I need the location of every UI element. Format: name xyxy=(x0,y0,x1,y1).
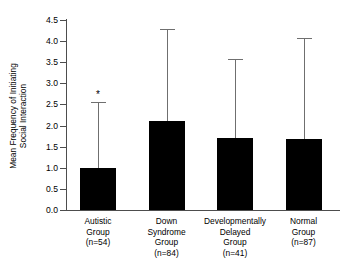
bar xyxy=(149,121,185,210)
y-axis-tick xyxy=(60,147,66,148)
error-bar-line xyxy=(167,29,168,121)
error-bar-cap xyxy=(297,38,312,39)
y-axis-tick-label: 0.5 xyxy=(14,184,58,194)
y-axis-tick xyxy=(60,104,66,105)
y-axis-tick xyxy=(60,20,66,21)
y-axis-line xyxy=(66,19,67,211)
error-bar-cap xyxy=(160,29,175,30)
y-axis-tick xyxy=(60,168,66,169)
error-bar-line xyxy=(235,59,236,138)
error-bar-line xyxy=(304,38,305,139)
y-axis-tick-label: 3.5 xyxy=(14,57,58,67)
significance-asterisk: * xyxy=(91,90,105,100)
y-axis-tick xyxy=(60,126,66,127)
y-axis-tick xyxy=(60,83,66,84)
y-axis-tick-label: 1.0 xyxy=(14,163,58,173)
y-axis-tick-label: 2.0 xyxy=(14,121,58,131)
y-axis-tick-label: 4.5 xyxy=(14,15,58,25)
error-bar-cap xyxy=(228,59,243,60)
error-bar-cap xyxy=(91,102,106,103)
y-axis-tick xyxy=(60,210,66,211)
y-axis-tick-label: 2.5 xyxy=(14,99,58,109)
y-axis-tick-label: 0.0 xyxy=(14,205,58,215)
error-bar-line xyxy=(98,102,99,167)
x-axis-category-label: Normal Group (n=87) xyxy=(264,216,344,248)
bar-chart: Mean Frequency of Initiating Social Inte… xyxy=(0,0,346,268)
x-axis-line xyxy=(66,210,340,211)
bar xyxy=(286,139,322,210)
bar xyxy=(217,138,253,210)
y-axis-tick-label: 1.5 xyxy=(14,142,58,152)
y-axis-tick xyxy=(60,62,66,63)
y-axis-tick-label: 3.0 xyxy=(14,78,58,88)
y-axis-tick xyxy=(60,41,66,42)
bar xyxy=(80,168,116,210)
y-axis-tick xyxy=(60,189,66,190)
y-axis-tick-label: 4.0 xyxy=(14,36,58,46)
